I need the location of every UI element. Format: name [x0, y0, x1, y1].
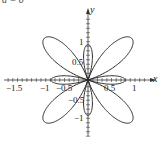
y-tick-label: −0.5	[68, 96, 84, 105]
y-axis-label: y	[90, 5, 94, 15]
y-tick-label: −1	[74, 114, 84, 123]
x-tick-label: −1	[40, 84, 50, 93]
y-axis	[86, 8, 90, 136]
x-axis	[4, 78, 156, 82]
x-tick-label: 1	[132, 84, 137, 93]
x-tick-label: −0.5	[56, 84, 72, 93]
y-tick-label: 1	[79, 38, 84, 47]
y-tick-label: 0.5	[72, 58, 83, 67]
x-tick-label: −1.5	[6, 84, 22, 93]
x-axis-label: x	[153, 74, 157, 84]
x-tick-label: 0.5	[104, 84, 115, 93]
